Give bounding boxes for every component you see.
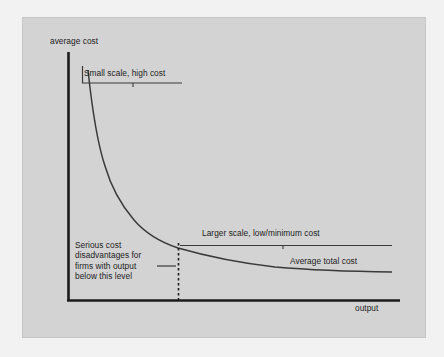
figure-container: average cost output Small scale, high co… <box>0 0 444 357</box>
chart-panel <box>22 17 426 338</box>
annotation-larger-scale-low-minimum-cost: Larger scale, low/minimum cost <box>202 228 320 238</box>
y-axis-label: average cost <box>50 36 98 46</box>
annotation-average-total-cost: Average total cost <box>290 256 357 266</box>
annotation-small-scale-high-cost: Small scale, high cost <box>84 68 165 78</box>
x-axis-label: output <box>355 303 378 313</box>
annotation-serious-cost-disadvantages: Serious cost disadvantages for firms wit… <box>75 240 141 282</box>
